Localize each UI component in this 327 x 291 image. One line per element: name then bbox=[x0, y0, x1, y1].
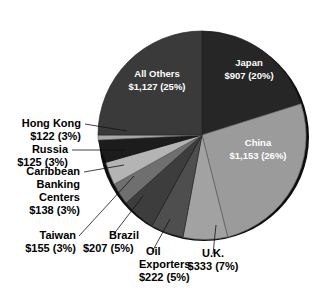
label-caribbean-line3: Centers bbox=[39, 191, 80, 203]
label-japan-line1: Japan bbox=[235, 57, 263, 68]
label-oil-line3: $222 (5%) bbox=[139, 271, 190, 283]
label-taiwan-line1: Taiwan bbox=[40, 229, 77, 241]
label-uk-line2: $333 (7%) bbox=[188, 260, 239, 272]
label-oil-line2: Exporters bbox=[139, 258, 190, 270]
label-brazil-line1: Brazil bbox=[109, 229, 139, 241]
label-japan-line2: $907 (20%) bbox=[224, 70, 273, 81]
label-hong-kong-line2: $122 (3%) bbox=[30, 130, 81, 142]
pie-chart-svg: Japan $907 (20%) China $1,153 (26%) All … bbox=[0, 0, 327, 291]
label-taiwan-line2: $155 (3%) bbox=[25, 242, 76, 254]
label-caribbean-line1: Caribbean bbox=[26, 165, 80, 177]
label-brazil-line2: $207 (5%) bbox=[83, 242, 134, 254]
label-uk-line1: U.K. bbox=[202, 247, 224, 259]
label-all-others-line2: $1,127 (25%) bbox=[128, 81, 185, 92]
label-caribbean-line2: Banking bbox=[37, 178, 80, 190]
label-russia-line1: Russia bbox=[32, 143, 69, 155]
label-china-line2: $1,153 (26%) bbox=[229, 150, 286, 161]
label-oil-line1: Oil bbox=[146, 245, 161, 257]
label-hong-kong-line1: Hong Kong bbox=[22, 117, 81, 129]
label-caribbean-line4: $138 (3%) bbox=[29, 204, 80, 216]
pie-chart: Japan $907 (20%) China $1,153 (26%) All … bbox=[0, 0, 327, 291]
label-all-others-line1: All Others bbox=[134, 68, 179, 79]
label-china-line1: China bbox=[245, 137, 272, 148]
